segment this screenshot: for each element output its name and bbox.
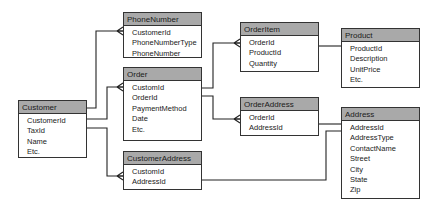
field: State [350, 175, 419, 185]
field: PaymentMethod [132, 104, 201, 114]
entity-product: Product ProductId Description UnitPrice … [341, 28, 420, 88]
field: OrderId [249, 113, 318, 123]
field: Etc. [132, 125, 201, 135]
field: CustomerId [27, 116, 86, 126]
entity-title: Address [342, 108, 419, 121]
field: AddressId [132, 177, 201, 187]
field: UnitPrice [350, 65, 419, 75]
field: CustomId [132, 83, 201, 93]
field: ProductId [350, 44, 419, 54]
field: AddressType [350, 133, 419, 143]
entity-customeraddress: CustomerAddress CustomId AddressId [123, 151, 202, 190]
field: ContactName [350, 144, 419, 154]
field: Quantity [249, 59, 318, 69]
line-customer-customeraddress [87, 128, 123, 176]
entity-phonenumber: PhoneNumber CustomerId PhoneNumberType P… [123, 12, 202, 58]
field: OrderId [249, 38, 318, 48]
field-list: CustomerId TaxId Name Etc. [19, 114, 86, 158]
field: City [350, 165, 419, 175]
field-list: CustomId OrderId PaymentMethod Date Etc. [124, 81, 201, 135]
field: Street [350, 154, 419, 164]
er-diagram: PhoneNumber CustomerId PhoneNumberType P… [0, 0, 437, 210]
line-order-orderitem [202, 43, 240, 88]
field: CustomId [132, 167, 201, 177]
entity-customer: Customer CustomerId TaxId Name Etc. [18, 100, 87, 158]
field: CustomerId [132, 28, 201, 38]
field: Etc. [27, 147, 86, 157]
field-list: OrderId ProductId Quantity [241, 36, 318, 69]
field-list: ProductId Description UnitPrice Etc. [342, 42, 419, 86]
field-list: CustomerId PhoneNumberType PhoneNumber [124, 26, 201, 59]
field: PhoneNumber [132, 49, 201, 59]
entity-title: Customer [19, 101, 86, 114]
line-order-orderaddress [202, 96, 240, 119]
field-list: OrderId AddressId [241, 111, 318, 134]
field: Date [132, 114, 201, 124]
entity-orderaddress: OrderAddress OrderId AddressId [240, 97, 319, 136]
field: ProductId [249, 48, 318, 58]
line-customeraddress-address [202, 131, 341, 180]
entity-orderitem: OrderItem OrderId ProductId Quantity [240, 22, 319, 72]
field-list: CustomId AddressId [124, 165, 201, 188]
entity-address: Address AddressId AddressType ContactNam… [341, 107, 420, 199]
field-list: AddressId AddressType ContactName Street… [342, 121, 419, 196]
line-customer-order [87, 87, 123, 119]
entity-title: Product [342, 29, 419, 42]
field: Description [350, 54, 419, 64]
entity-order: Order CustomId OrderId PaymentMethod Dat… [123, 67, 202, 141]
field: TaxId [27, 126, 86, 136]
entity-title: PhoneNumber [124, 13, 201, 26]
field: PhoneNumberType [132, 38, 201, 48]
field: AddressId [350, 123, 419, 133]
entity-title: CustomerAddress [124, 152, 201, 165]
field: Etc. [350, 75, 419, 85]
field: OrderId [132, 93, 201, 103]
entity-title: Order [124, 68, 201, 81]
entity-title: OrderAddress [241, 98, 318, 111]
field: Zip [350, 185, 419, 195]
entity-title: OrderItem [241, 23, 318, 36]
line-customer-phonenumber [87, 31, 123, 108]
field: Name [27, 137, 86, 147]
field: AddressId [249, 123, 318, 133]
